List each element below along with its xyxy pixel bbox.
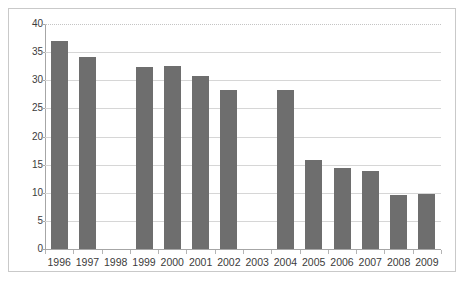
y-axis-tick-mark [41,221,45,222]
y-axis-tick-mark [41,108,45,109]
bar [51,41,68,249]
gridline [45,165,441,166]
gridline [45,24,441,26]
bar [192,76,209,249]
gridline [45,193,441,194]
y-axis-tick-mark [41,193,45,194]
x-axis-tick-mark [45,250,46,254]
x-axis-tick-mark [186,250,187,254]
x-axis-tick-mark [271,250,272,254]
y-axis-tick-label: 5 [21,216,43,226]
y-axis-tick-label: 35 [21,47,43,57]
y-axis-tick-label: 30 [21,75,43,85]
gridline [45,137,441,138]
x-axis-tick-mark [73,250,74,254]
x-axis-tick-mark [130,250,131,254]
x-axis-tick-mark [300,250,301,254]
y-axis-tick-mark [41,24,45,25]
bar [136,67,153,249]
bar [418,194,435,249]
y-axis-tick-label: 25 [21,103,43,113]
bar [79,57,96,249]
bar [164,66,181,249]
gridline [45,52,441,53]
y-axis-tick-label: 0 [21,244,43,254]
gridline [45,80,441,81]
x-axis-tick-mark [328,250,329,254]
chart-frame: 0510152025303540 19961997199819992000200… [8,8,456,272]
y-axis-tick-label: 15 [21,160,43,170]
bar [277,90,294,249]
x-axis-tick-mark [413,250,414,254]
y-axis-tick-mark [41,80,45,81]
x-axis-tick-mark [243,250,244,254]
bar [220,90,237,249]
bar [305,160,322,249]
y-axis-tick-labels: 0510152025303540 [17,9,43,273]
x-axis-tick-mark [384,250,385,254]
gridline [45,221,441,222]
y-axis-tick-label: 20 [21,132,43,142]
x-axis-tick-mark [215,250,216,254]
gridline [45,108,441,109]
x-axis-tick-mark [441,250,442,254]
bar [390,195,407,249]
y-axis-tick-label: 10 [21,188,43,198]
x-axis-tick-mark [102,250,103,254]
bar [362,171,379,249]
y-axis-tick-mark [41,52,45,53]
x-axis-tick-mark [158,250,159,254]
y-axis-tick-label: 40 [21,19,43,29]
plot-area [45,24,441,249]
bar [334,168,351,249]
y-axis-tick-mark [41,165,45,166]
x-axis-tick-label: 2009 [407,256,447,268]
y-axis-tick-mark [41,137,45,138]
x-axis-tick-mark [356,250,357,254]
